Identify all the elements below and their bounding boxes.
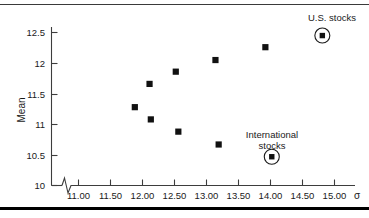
annotation-international-label-line2: stocks <box>259 140 286 151</box>
y-tick-label-11: 11 <box>35 119 45 130</box>
x-axis-title-sigma: σ <box>354 190 361 201</box>
annotation-us-stocks-label: U.S. stocks <box>308 12 356 23</box>
x-tick-label-14-00: 14.00 <box>259 190 283 201</box>
x-tick-label-15-00: 15.00 <box>323 190 347 201</box>
data-point-marker <box>173 69 179 75</box>
data-point-marker <box>320 33 325 38</box>
y-tick-label-12-5: 12.5 <box>27 27 46 38</box>
y-tick-marks <box>52 33 58 186</box>
data-point-marker <box>175 129 181 135</box>
data-point-marker <box>269 154 274 159</box>
data-point-marker <box>262 44 268 50</box>
x-tick-label-11-50: 11.50 <box>99 190 122 201</box>
x-tick-label-12-00: 12.00 <box>131 190 155 201</box>
x-tick-label-13-00: 13.00 <box>195 190 219 201</box>
data-markers-layer <box>132 28 330 164</box>
data-point-marker <box>212 57 218 63</box>
x-tick-label-13-50: 13.50 <box>227 190 251 201</box>
y-tick-label-10-5: 10.5 <box>27 150 46 161</box>
y-axis-title: Mean <box>16 97 27 122</box>
data-point-marker <box>216 141 222 147</box>
plot-canvas: 12.5 12 11.5 11 10.5 10 Mean 11.00 11.50… <box>0 0 369 218</box>
annotation-international-label-line1: International <box>246 129 298 140</box>
data-point-marker <box>146 81 152 87</box>
data-point-marker <box>132 104 138 110</box>
x-tick-marks <box>79 180 335 186</box>
x-tick-label-14-50: 14.50 <box>291 190 315 201</box>
y-tick-label-12: 12 <box>34 58 45 69</box>
y-tick-label-11-5: 11.5 <box>27 89 45 100</box>
x-tick-label-11-00: 11.00 <box>67 190 90 201</box>
y-tick-label-10: 10 <box>34 180 45 191</box>
data-point-marker <box>148 116 154 122</box>
x-tick-label-12-50: 12.50 <box>163 190 187 201</box>
scatter-plot-figure: 12.5 12 11.5 11 10.5 10 Mean 11.00 11.50… <box>0 0 369 218</box>
